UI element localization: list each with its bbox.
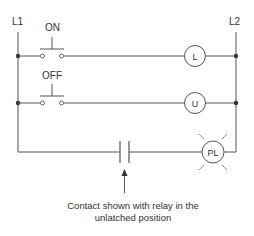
annotation-line-1: Contact shown with relay in the (67, 200, 198, 211)
rung-3: PL (18, 134, 236, 170)
pilot-light-label: PL (207, 148, 218, 158)
pushbutton-on-label: ON (45, 22, 60, 33)
annotation-arrow (122, 169, 128, 193)
contact-terminal (60, 54, 64, 58)
rung-1: ON L (16, 22, 238, 67)
coil-u-label: U (192, 99, 199, 109)
pushbutton-off-label: OFF (42, 70, 62, 81)
annotation-line-2: unlatched position (95, 212, 172, 223)
rail-label-l2: L2 (229, 16, 241, 27)
junction-dot (234, 54, 238, 58)
coil-l-label: L (192, 52, 197, 62)
arrowhead-icon (122, 169, 128, 176)
rail-label-l1: L1 (12, 16, 24, 27)
contact-terminal (41, 54, 45, 58)
ladder-diagram: L1 L2 ON L OFF U (0, 0, 254, 236)
junction-dot (234, 101, 238, 105)
contact-terminal (60, 101, 64, 105)
contact-terminal (41, 101, 45, 105)
rung-2: OFF U (16, 70, 238, 114)
